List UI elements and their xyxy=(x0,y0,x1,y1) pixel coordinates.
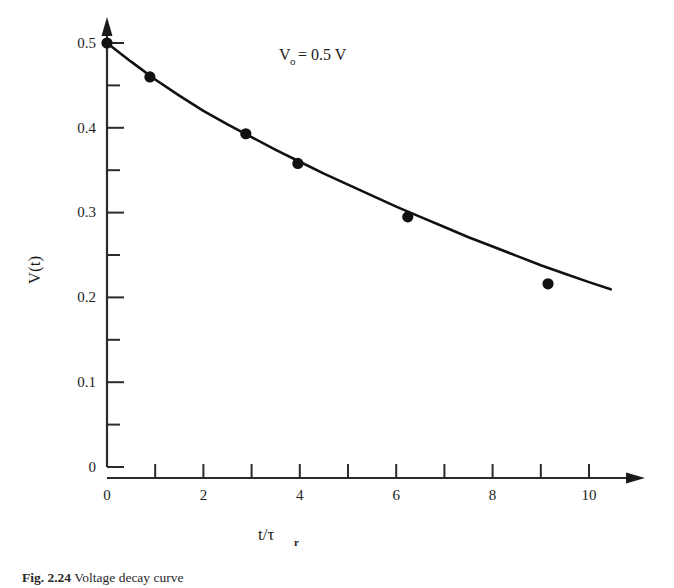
x-tick-label-4: 4 xyxy=(296,487,304,503)
y-axis-title-text: V(t) xyxy=(25,256,44,284)
y-axis-title: V(t) xyxy=(25,256,44,284)
data-point xyxy=(240,128,251,139)
voltage-decay-chart: 0.5 0.4 0.3 0.2 0.1 0 0 2 4 6 8 10 V(t) … xyxy=(0,0,674,588)
data-point xyxy=(542,278,553,289)
x-tick-label-2: 2 xyxy=(200,487,208,503)
plot-area: 0.5 0.4 0.3 0.2 0.1 0 0 2 4 6 8 10 V(t) … xyxy=(25,17,645,548)
x-axis-title-subscript: r xyxy=(294,536,299,548)
y-tick-label-0.4: 0.4 xyxy=(77,120,96,136)
y-tick-label-0.3: 0.3 xyxy=(77,204,96,220)
y-tick-label-0.1: 0.1 xyxy=(77,374,96,390)
x-axis-ticks xyxy=(155,464,589,478)
y-axis-ticks xyxy=(107,43,124,467)
y-axis-arrowhead xyxy=(102,17,113,36)
annotation-v0: V o = 0.5 V xyxy=(279,46,347,67)
figure-caption: Fig. 2.24 Voltage decay curve xyxy=(22,570,662,586)
y-tick-label-0.2: 0.2 xyxy=(77,289,96,305)
x-axis-arrowhead xyxy=(626,473,645,484)
decay-curve xyxy=(107,43,611,289)
y-tick-label-0.5: 0.5 xyxy=(77,35,96,51)
x-tick-label-8: 8 xyxy=(489,487,497,503)
x-axis-title-main: t/τ xyxy=(258,525,274,544)
figure-container: 0.5 0.4 0.3 0.2 0.1 0 0 2 4 6 8 10 V(t) … xyxy=(0,0,674,588)
data-point-group xyxy=(101,37,553,289)
data-point xyxy=(292,158,303,169)
data-point xyxy=(402,211,413,222)
y-tick-label-0: 0 xyxy=(89,459,97,475)
figure-caption-text: Voltage decay curve xyxy=(74,570,183,585)
data-point xyxy=(101,37,112,48)
x-axis-title: t/τ r xyxy=(258,525,299,548)
annotation-subscript: o xyxy=(290,55,296,67)
data-point xyxy=(144,71,155,82)
x-tick-label-0: 0 xyxy=(103,487,111,503)
x-tick-label-6: 6 xyxy=(392,487,400,503)
annotation-value: = 0.5 V xyxy=(298,46,347,63)
figure-caption-label: Fig. 2.24 xyxy=(22,570,71,585)
x-tick-label-10: 10 xyxy=(582,487,597,503)
